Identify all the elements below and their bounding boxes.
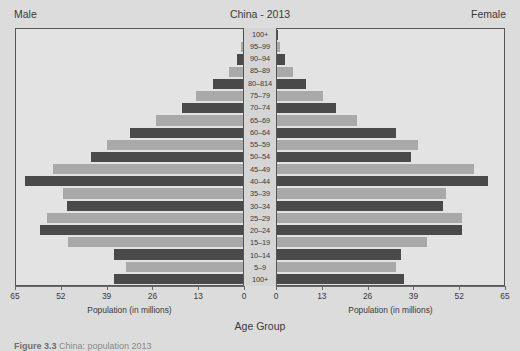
table-row xyxy=(16,114,243,126)
male-bar-95_99 xyxy=(241,42,243,52)
figure-number: Figure 3.3 xyxy=(14,341,57,351)
age-group-label: 100+ xyxy=(244,28,276,40)
female-bar-35_39 xyxy=(277,188,446,198)
female-bar-60_64 xyxy=(277,128,396,138)
female-bar-10_14 xyxy=(277,249,401,259)
table-row xyxy=(16,139,243,151)
age-group-axis-title: Age Group xyxy=(0,320,520,332)
age-group-label: 100+ xyxy=(244,274,276,286)
female-axis-tick xyxy=(459,286,460,290)
male-bar-85_89 xyxy=(229,67,243,77)
male-bar-55_59 xyxy=(107,140,243,150)
age-group-label: 95–99 xyxy=(244,40,276,52)
female-axis-tick xyxy=(413,286,414,290)
age-group-label: 20–24 xyxy=(244,225,276,237)
female-axis-tick xyxy=(505,286,506,290)
female-bar-5_9 xyxy=(277,262,396,272)
male-bar-65_69 xyxy=(156,115,243,125)
female-bar-100+ xyxy=(277,30,278,40)
male-bar-5_9 xyxy=(126,262,243,272)
male-bar-50_54 xyxy=(91,152,243,162)
female-bar-30_34 xyxy=(277,201,443,211)
table-row xyxy=(16,261,243,273)
male-axis-ticks: 65523926130 xyxy=(15,286,244,304)
female-axis-tick xyxy=(276,286,277,290)
female-axis-tick xyxy=(322,286,323,290)
male-axis-tick xyxy=(107,286,108,290)
male-bar-40_44 xyxy=(25,176,243,186)
table-row xyxy=(16,212,243,224)
age-group-label: 55–59 xyxy=(244,139,276,151)
male-bar-60_64 xyxy=(130,128,244,138)
table-row xyxy=(16,248,243,260)
table-row xyxy=(277,114,504,126)
male-axis-tick-label: 52 xyxy=(56,291,65,301)
male-bar-30_34 xyxy=(67,201,243,211)
female-bar-20_24 xyxy=(277,225,462,235)
figure-caption: Figure 3.3 China: population 2013 xyxy=(14,341,514,351)
age-group-label: 80–814 xyxy=(244,77,276,89)
female-axis-title: Population (in millions) xyxy=(276,305,505,315)
male-plot-panel xyxy=(15,28,244,286)
table-row xyxy=(277,248,504,260)
male-bar-20_24 xyxy=(40,225,243,235)
female-axis-tick xyxy=(368,286,369,290)
female-axis-tick-label: 39 xyxy=(409,291,418,301)
age-group-label: 85–89 xyxy=(244,65,276,77)
table-row xyxy=(277,102,504,114)
female-bar-40_44 xyxy=(277,176,488,186)
female-bar-55_59 xyxy=(277,140,418,150)
age-group-label: 70–74 xyxy=(244,102,276,114)
table-row xyxy=(16,175,243,187)
table-row xyxy=(277,139,504,151)
female-bar-85_89 xyxy=(277,67,293,77)
age-group-label: 60–64 xyxy=(244,126,276,138)
female-bar-50_54 xyxy=(277,152,411,162)
table-row xyxy=(277,187,504,199)
male-bar-75_79 xyxy=(196,91,243,101)
table-row xyxy=(277,151,504,163)
table-row xyxy=(16,102,243,114)
chart-root: Male China - 2013 Female 100+95–9990–948… xyxy=(0,0,520,351)
male-axis-tick xyxy=(152,286,153,290)
female-bar-rows xyxy=(277,29,504,285)
male-axis-tick-label: 65 xyxy=(10,291,19,301)
male-bar-25_29 xyxy=(47,213,243,223)
female-bar-65_69 xyxy=(277,115,357,125)
age-group-label-column: 100+95–9990–9485–8980–81475–7970–7465–69… xyxy=(244,28,276,286)
female-bar-80_814 xyxy=(277,79,306,89)
table-row xyxy=(16,163,243,175)
chart-title: China - 2013 xyxy=(0,8,520,20)
male-axis-tick xyxy=(198,286,199,290)
age-group-label: 30–34 xyxy=(244,200,276,212)
chart-header: Male China - 2013 Female xyxy=(0,8,520,24)
table-row xyxy=(16,29,243,41)
female-bar-70_74 xyxy=(277,103,336,113)
female-bar-95_99 xyxy=(277,42,280,52)
age-group-label: 75–79 xyxy=(244,89,276,101)
female-plot-panel xyxy=(276,28,505,286)
table-row xyxy=(277,261,504,273)
table-row xyxy=(16,53,243,65)
table-row xyxy=(277,127,504,139)
table-row xyxy=(16,78,243,90)
table-row xyxy=(16,127,243,139)
table-row xyxy=(16,236,243,248)
female-bar-100+ xyxy=(277,274,404,284)
male-axis-tick-label: 39 xyxy=(102,291,111,301)
table-row xyxy=(16,273,243,285)
table-row xyxy=(16,224,243,236)
table-row xyxy=(277,53,504,65)
table-row xyxy=(277,212,504,224)
table-row xyxy=(277,41,504,53)
age-group-label: 15–19 xyxy=(244,237,276,249)
age-group-label: 10–14 xyxy=(244,249,276,261)
male-bar-10_14 xyxy=(114,249,243,259)
table-row xyxy=(277,66,504,78)
male-axis-tick-label: 26 xyxy=(148,291,157,301)
male-axis-tick xyxy=(61,286,62,290)
table-row xyxy=(16,41,243,53)
figure-caption-text: China: population 2013 xyxy=(59,341,152,351)
male-bar-80_814 xyxy=(213,79,243,89)
male-bar-rows xyxy=(16,29,243,285)
